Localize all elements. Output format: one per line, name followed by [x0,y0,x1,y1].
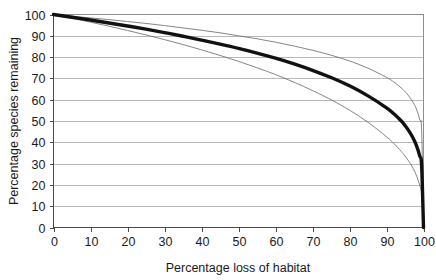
species-area-chart: 0102030405060708090100 01020304050607080… [0,0,436,280]
x-tick-label: 20 [122,235,136,249]
x-tick-label: 0 [51,235,58,249]
x-tick-label: 40 [196,235,210,249]
y-tick-label: 60 [32,94,46,108]
x-axis-title: Percentage loss of habitat [166,261,311,275]
x-tick-label: 70 [307,235,321,249]
x-tick-label: 10 [85,235,99,249]
y-tick-label: 40 [32,136,46,150]
y-tick-label: 80 [32,51,46,65]
y-tick-label: 100 [25,9,46,23]
y-tick-label: 30 [32,158,46,172]
chart-svg: 0102030405060708090100 01020304050607080… [0,0,436,280]
y-tick-label: 0 [39,222,46,236]
x-tick-label: 30 [159,235,173,249]
y-tick-label: 70 [32,72,46,86]
x-tick-label: 50 [233,235,247,249]
x-tick-label: 60 [270,235,284,249]
x-tick-label: 100 [414,235,435,249]
x-tick-label: 80 [344,235,358,249]
y-tick-label: 20 [32,179,46,193]
y-tick-label: 10 [32,200,46,214]
y-axis-title: Percentage species remaining [7,37,21,205]
y-tick-label: 50 [32,115,46,129]
x-tick-label: 90 [381,235,395,249]
y-tick-label: 90 [32,30,46,44]
